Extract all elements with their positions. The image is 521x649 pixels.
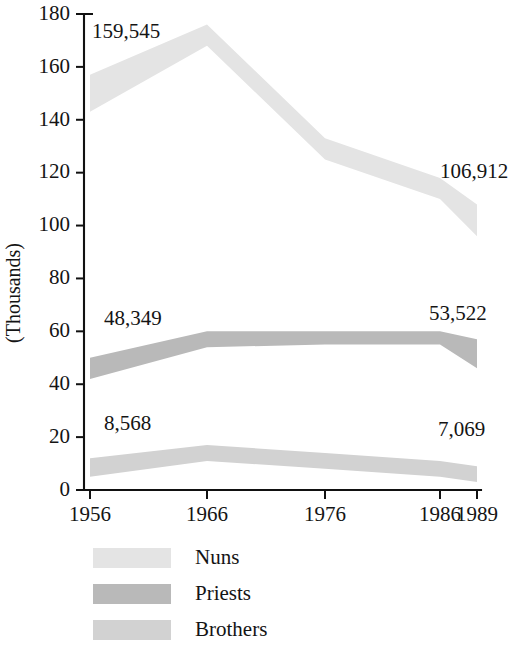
legend-swatch-nuns <box>93 548 171 568</box>
chart-legend: NunsPriestsBrothers <box>93 545 267 641</box>
data-value-label: 106,912 <box>440 159 508 183</box>
x-tick-label: 1989 <box>456 502 498 526</box>
line-chart-figure: 020406080100120140160180 (Thousands) 195… <box>0 0 521 649</box>
legend-label-nuns: Nuns <box>195 545 239 569</box>
y-tick-label: 180 <box>39 1 71 25</box>
x-tick-label: 1956 <box>69 502 111 526</box>
y-axis: 020406080100120140160180 (Thousands) <box>2 1 93 501</box>
y-tick-label: 160 <box>39 54 71 78</box>
series-band-priests <box>90 331 477 379</box>
legend-label-brothers: Brothers <box>195 617 267 641</box>
y-tick-label: 20 <box>49 424 70 448</box>
y-tick-label: 140 <box>39 107 71 131</box>
x-axis: 19561966197619861989 <box>69 490 498 526</box>
legend-swatch-brothers <box>93 620 171 640</box>
legend-label-priests: Priests <box>195 581 251 605</box>
y-tick-label: 80 <box>49 265 70 289</box>
data-value-labels: 159,545106,91248,34953,5228,5687,069 <box>92 19 508 441</box>
x-tick-label: 1966 <box>186 502 228 526</box>
x-axis-ticks <box>90 490 477 499</box>
legend-swatch-priests <box>93 584 171 604</box>
y-tick-label: 60 <box>49 318 70 342</box>
series-band-brothers <box>90 445 477 482</box>
y-tick-label: 100 <box>39 212 71 236</box>
y-tick-label: 0 <box>60 477 71 501</box>
x-tick-label: 1986 <box>419 502 461 526</box>
y-axis-title: (Thousands) <box>2 243 25 343</box>
data-value-label: 159,545 <box>92 19 160 43</box>
y-axis-tick-labels: 020406080100120140160180 <box>39 1 71 501</box>
data-value-label: 7,069 <box>438 417 485 441</box>
y-tick-label: 120 <box>39 159 71 183</box>
x-tick-label: 1976 <box>304 502 346 526</box>
data-value-label: 48,349 <box>104 306 162 330</box>
y-tick-label: 40 <box>49 371 70 395</box>
x-axis-tick-labels: 19561966197619861989 <box>69 502 498 526</box>
data-value-label: 8,568 <box>104 411 151 435</box>
series-band-nuns <box>90 25 477 237</box>
chart-container: 020406080100120140160180 (Thousands) 195… <box>0 0 521 649</box>
data-value-label: 53,522 <box>429 301 487 325</box>
